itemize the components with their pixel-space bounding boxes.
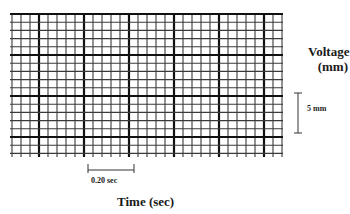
voltage-scale-label: 5 mm xyxy=(307,104,326,113)
time-scale-label: 0.20 sec xyxy=(91,176,117,185)
y-axis-label: Voltage (mm) xyxy=(308,44,348,74)
ecg-grid xyxy=(0,0,350,214)
x-axis-label: Time (sec) xyxy=(117,194,174,210)
y-axis-label-line1: Voltage xyxy=(308,44,348,59)
y-axis-label-line2: (mm) xyxy=(308,59,348,74)
